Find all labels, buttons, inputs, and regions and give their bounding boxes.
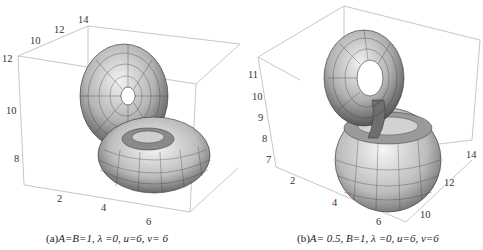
tick-y-12: 12 <box>54 24 65 35</box>
tick-y-14: 14 <box>466 149 477 160</box>
figure-panel-a: 12 10 8 10 12 14 2 4 6 (a)A=B=1, λ =0, u… <box>0 0 240 250</box>
tick-x-2: 2 <box>57 193 62 204</box>
tick-y-14: 14 <box>78 14 89 25</box>
tick-x-6: 6 <box>146 216 151 227</box>
tick-z-9: 9 <box>258 112 263 123</box>
tick-z-12: 12 <box>2 53 13 64</box>
tick-z-8: 8 <box>14 153 19 164</box>
tick-y-10: 10 <box>30 35 41 46</box>
tick-y-12: 12 <box>444 177 455 188</box>
tick-x-2: 2 <box>290 175 295 186</box>
tick-z-8: 8 <box>262 133 267 144</box>
tick-x-4: 4 <box>101 202 107 213</box>
caption-b: (b)A= 0.5, B=1, λ =0, u=6, v=6 <box>297 232 439 244</box>
caption-a: (a)A=B=1, λ =0, u=6, v= 6 <box>46 232 168 244</box>
tick-z-11: 11 <box>248 69 258 80</box>
tick-x-6: 6 <box>376 216 381 227</box>
tick-z-7: 7 <box>266 154 271 165</box>
tick-y-10: 10 <box>420 209 431 220</box>
caption-params-a: A=B=1, λ =0, u=6, v= 6 <box>58 232 168 244</box>
tick-z-10: 10 <box>252 91 263 102</box>
caption-label-a: (a) <box>46 232 58 244</box>
plot-3d-a: 12 10 8 10 12 14 2 4 6 <box>0 0 240 250</box>
caption-label-b: (b) <box>297 232 310 244</box>
tick-z-10: 10 <box>6 105 17 116</box>
caption-params-b: A= 0.5, B=1, λ =0, u=6, v=6 <box>310 232 439 244</box>
tick-x-4: 4 <box>332 197 338 208</box>
torus-lower-a <box>98 117 210 193</box>
figure-panel-b: 11 10 9 8 7 2 4 6 10 12 14 (b)A= 0.5, B=… <box>240 0 483 250</box>
plot-3d-b: 11 10 9 8 7 2 4 6 10 12 14 <box>240 0 483 250</box>
